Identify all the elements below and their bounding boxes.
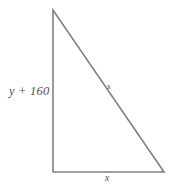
triangle-outline [53,10,164,172]
right-triangle-figure: y + 160 s x [0,0,172,191]
base-label: x [105,174,109,184]
hypotenuse-label: s [107,82,111,91]
vertical-leg-label: y + 160 [9,85,49,98]
